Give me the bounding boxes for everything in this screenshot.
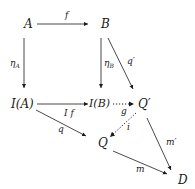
node-q: Q (98, 137, 108, 149)
node-b: B (101, 18, 110, 30)
label-m-prime: m′ (166, 138, 177, 147)
node-q-prime: Q′ (138, 98, 151, 110)
label-i: i (127, 123, 130, 132)
label-eta-a-sub: A (15, 62, 19, 69)
node-d: D (178, 174, 188, 186)
node-i-b: I(B) (89, 98, 110, 110)
label-eta-b-sub: B (109, 62, 113, 69)
label-g: g (121, 107, 127, 116)
label-m: m (136, 165, 145, 174)
label-eta-b: ηB (104, 59, 114, 70)
arrow-i (110, 113, 136, 137)
label-q-prime: q′ (127, 57, 135, 66)
label-q: q (58, 125, 64, 134)
node-a: A (24, 18, 33, 30)
label-if: I f (64, 109, 74, 118)
label-eta-a: ηA (10, 59, 20, 70)
label-f: f (65, 11, 68, 20)
node-i-a: I(A) (11, 98, 34, 110)
